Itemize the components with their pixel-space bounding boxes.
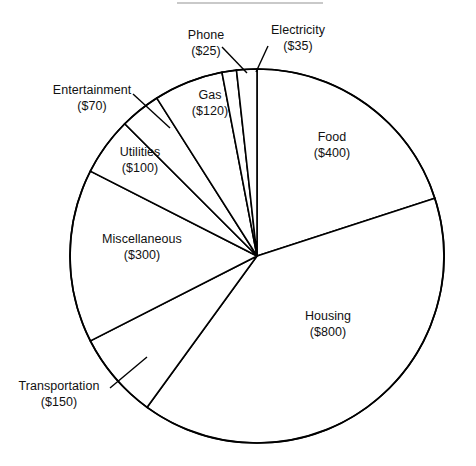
slice-label-food-value: ($400) (292, 146, 372, 162)
slice-label-entertainment: Entertainment ($70) (38, 83, 146, 114)
slice-label-miscellaneous-name: Miscellaneous (81, 232, 203, 248)
slice-label-phone-name: Phone (175, 28, 237, 44)
slice-label-food-name: Food (292, 130, 372, 146)
slice-label-transportation-name: Transportation (4, 379, 114, 395)
slice-label-phone-value: ($25) (175, 44, 237, 60)
slice-label-electricity-value: ($35) (259, 39, 337, 55)
slice-label-housing: Housing ($800) (282, 309, 374, 340)
slice-label-miscellaneous-value: ($300) (81, 248, 203, 264)
slice-label-transportation: Transportation ($150) (4, 379, 114, 410)
slice-label-utilities-name: Utilities (100, 145, 180, 161)
slice-label-housing-value: ($800) (282, 325, 374, 341)
slice-label-utilities-value: ($100) (100, 161, 180, 177)
slice-label-phone: Phone ($25) (175, 28, 237, 59)
slice-label-gas: Gas ($120) (177, 88, 243, 119)
slice-label-miscellaneous: Miscellaneous ($300) (81, 232, 203, 263)
slice-label-gas-name: Gas (177, 88, 243, 104)
slice-label-food: Food ($400) (292, 130, 372, 161)
slice-label-housing-name: Housing (282, 309, 374, 325)
slice-label-entertainment-name: Entertainment (38, 83, 146, 99)
slice-label-transportation-value: ($150) (4, 395, 114, 411)
slice-label-entertainment-value: ($70) (38, 99, 146, 115)
slice-label-electricity-name: Electricity (259, 23, 337, 39)
slice-label-utilities: Utilities ($100) (100, 145, 180, 176)
slice-label-electricity: Electricity ($35) (259, 23, 337, 54)
pie-chart: Food ($400) Housing ($800) Transportatio… (0, 0, 476, 466)
slice-label-gas-value: ($120) (177, 104, 243, 120)
